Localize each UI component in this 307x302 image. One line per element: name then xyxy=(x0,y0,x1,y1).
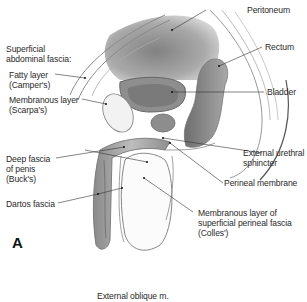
label-line: Membranous layer of xyxy=(198,208,292,218)
label-line: Fatty layer xyxy=(9,70,50,80)
label-line: Deep fascia xyxy=(6,154,50,164)
label-line: External urethral xyxy=(243,148,304,158)
label-superficial-abdominal-fascia: Superficial abdominal fascia: xyxy=(6,44,71,64)
label-line: (Colles') xyxy=(198,228,292,238)
label-fatty-layer: Fatty layer (Camper's) xyxy=(9,70,50,90)
label-line: External oblique m. xyxy=(97,291,169,301)
label-colles-fascia: Membranous layer of superficial perineal… xyxy=(198,208,292,238)
label-line: (Buck's) xyxy=(6,174,50,184)
label-line: Peritoneum xyxy=(247,5,290,15)
label-peritoneum: Peritoneum xyxy=(247,5,290,15)
label-line: Membranous layer xyxy=(9,95,79,105)
label-line: (Camper's) xyxy=(9,80,50,90)
label-dartos-fascia: Dartos fascia xyxy=(6,199,55,209)
label-line: Dartos fascia xyxy=(6,199,55,209)
label-rectum: Rectum xyxy=(265,42,294,52)
label-line: superficial perineal fascia xyxy=(198,218,292,228)
label-line: of penis xyxy=(6,164,50,174)
panel-label: A xyxy=(12,234,23,251)
label-membranous-layer: Membranous layer (Scarpa's) xyxy=(9,95,79,115)
label-line: Bladder xyxy=(267,87,296,97)
label-line: (Scarpa's) xyxy=(9,105,79,115)
label-line: Superficial xyxy=(6,44,71,54)
label-perineal-membrane: Perineal membrane xyxy=(224,178,297,188)
label-deep-fascia-of-penis: Deep fascia of penis (Buck's) xyxy=(6,154,50,184)
label-external-oblique: External oblique m. xyxy=(97,291,169,301)
label-external-urethral-sphincter: External urethral sphincter xyxy=(243,148,304,168)
label-line: abdominal fascia: xyxy=(6,54,71,64)
label-line: Rectum xyxy=(265,42,294,52)
label-bladder: Bladder xyxy=(267,87,296,97)
label-line: sphincter xyxy=(243,158,304,168)
label-line: Perineal membrane xyxy=(224,178,297,188)
